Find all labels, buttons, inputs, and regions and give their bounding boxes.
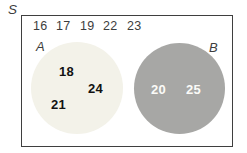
set-a-element: 24 — [88, 82, 103, 95]
outside-element: 17 — [56, 20, 71, 33]
set-a-label: A — [36, 40, 45, 53]
venn-diagram-figure: S 16 17 19 22 23 A B 18 24 21 20 25 — [0, 0, 247, 153]
set-a-element: 18 — [59, 65, 74, 78]
outside-element: 19 — [80, 20, 95, 33]
set-a-element: 21 — [51, 98, 66, 111]
set-a-circle — [31, 42, 123, 134]
universal-set-label: S — [8, 3, 17, 17]
set-b-element: 25 — [186, 83, 201, 96]
set-b-label: B — [209, 41, 218, 54]
outside-element: 23 — [127, 20, 142, 33]
set-b-element: 20 — [151, 83, 166, 96]
outside-element: 22 — [103, 20, 118, 33]
set-b-circle — [134, 43, 225, 134]
outside-element: 16 — [33, 20, 48, 33]
